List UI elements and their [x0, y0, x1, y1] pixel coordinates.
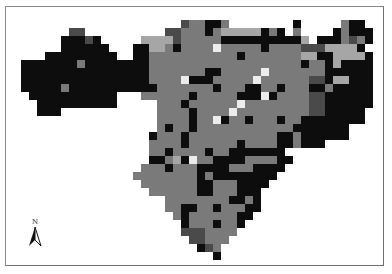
- map-cell: [149, 204, 157, 212]
- map-cell: [365, 132, 373, 140]
- map-cell: [141, 148, 149, 156]
- map-cell: [285, 164, 293, 172]
- map-cell: [109, 92, 117, 100]
- map-cell: [133, 212, 141, 220]
- map-cell: [357, 244, 365, 252]
- map-cell: [181, 252, 189, 260]
- map-cell: [261, 212, 269, 220]
- map-cell: [301, 20, 309, 28]
- map-cell: [277, 84, 285, 92]
- map-cell: [157, 84, 165, 92]
- map-cell: [301, 164, 309, 172]
- map-cell: [213, 108, 221, 116]
- map-cell: [189, 76, 197, 84]
- map-cell: [245, 156, 253, 164]
- map-cell: [109, 196, 117, 204]
- map-cell: [293, 28, 301, 36]
- map-cell: [365, 140, 373, 148]
- map-cell: [277, 148, 285, 156]
- map-cell: [269, 212, 277, 220]
- map-cell: [293, 92, 301, 100]
- map-cell: [229, 28, 237, 36]
- map-cell: [293, 188, 301, 196]
- map-cell: [85, 52, 93, 60]
- map-cell: [61, 164, 69, 172]
- map-cell: [301, 156, 309, 164]
- map-cell: [29, 204, 37, 212]
- map-cell: [197, 172, 205, 180]
- map-cell: [245, 20, 253, 28]
- map-cell: [29, 100, 37, 108]
- map-cell: [125, 100, 133, 108]
- map-cell: [205, 116, 213, 124]
- map-cell: [269, 44, 277, 52]
- map-cell: [261, 188, 269, 196]
- map-cell: [357, 164, 365, 172]
- map-cell: [157, 236, 165, 244]
- map-cell: [309, 244, 317, 252]
- map-cell: [341, 228, 349, 236]
- map-cell: [77, 52, 85, 60]
- map-cell: [149, 252, 157, 260]
- map-cell: [245, 172, 253, 180]
- map-cell: [133, 20, 141, 28]
- map-cell: [189, 212, 197, 220]
- map-cell: [61, 108, 69, 116]
- map-cell: [365, 196, 373, 204]
- map-cell: [61, 180, 69, 188]
- map-cell: [253, 156, 261, 164]
- map-cell: [213, 156, 221, 164]
- map-cell: [53, 28, 61, 36]
- map-cell: [349, 92, 357, 100]
- map-cell: [325, 44, 333, 52]
- map-cell: [317, 68, 325, 76]
- map-cell: [301, 92, 309, 100]
- map-cell: [61, 196, 69, 204]
- map-cell: [365, 100, 373, 108]
- map-cell: [125, 252, 133, 260]
- map-cell: [301, 68, 309, 76]
- map-cell: [149, 220, 157, 228]
- map-cell: [149, 116, 157, 124]
- map-cell: [221, 84, 229, 92]
- map-cell: [197, 68, 205, 76]
- map-cell: [29, 60, 37, 68]
- map-cell: [157, 60, 165, 68]
- map-cell: [37, 188, 45, 196]
- map-cell: [245, 28, 253, 36]
- map-cell: [365, 204, 373, 212]
- map-cell: [117, 228, 125, 236]
- map-cell: [309, 132, 317, 140]
- map-cell: [253, 44, 261, 52]
- map-cell: [77, 140, 85, 148]
- map-cell: [101, 244, 109, 252]
- map-cell: [237, 164, 245, 172]
- map-cell: [29, 188, 37, 196]
- map-cell: [93, 244, 101, 252]
- map-cell: [149, 60, 157, 68]
- map-cell: [117, 100, 125, 108]
- map-cell: [85, 140, 93, 148]
- map-cell: [333, 20, 341, 28]
- map-cell: [189, 148, 197, 156]
- map-cell: [205, 212, 213, 220]
- map-cell: [269, 100, 277, 108]
- map-cell: [117, 108, 125, 116]
- map-cell: [109, 44, 117, 52]
- map-cell: [53, 124, 61, 132]
- map-cell: [357, 20, 365, 28]
- map-cell: [237, 140, 245, 148]
- map-cell: [133, 108, 141, 116]
- map-cell: [221, 20, 229, 28]
- map-cell: [133, 188, 141, 196]
- map-cell: [53, 76, 61, 84]
- map-cell: [213, 124, 221, 132]
- map-cell: [173, 140, 181, 148]
- map-cell: [269, 76, 277, 84]
- map-cell: [229, 52, 237, 60]
- map-cell: [317, 108, 325, 116]
- map-cell: [69, 124, 77, 132]
- map-cell: [45, 140, 53, 148]
- map-cell: [157, 92, 165, 100]
- map-cell: [237, 84, 245, 92]
